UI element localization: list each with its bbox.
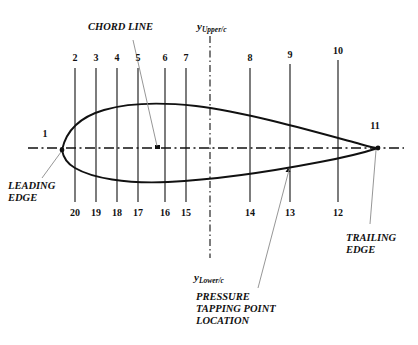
tap-label-2: 2 <box>68 52 82 63</box>
chord-line-caption: CHORD LINE <box>88 21 153 33</box>
y-lower-subscript: Lower/c <box>199 276 224 285</box>
leader-leading-edge <box>42 152 61 178</box>
tap-label-6: 6 <box>158 52 172 63</box>
tap-label-20: 20 <box>66 207 84 218</box>
leading-edge-caption: LEADING EDGE <box>8 180 55 204</box>
airfoil-diagram: 2 3 4 5 6 7 8 9 10 20 19 18 17 16 15 14 … <box>0 0 418 345</box>
tap-label-13: 13 <box>281 207 299 218</box>
tap-label-11: 11 <box>366 120 384 131</box>
tap-label-16: 16 <box>156 207 174 218</box>
tap-label-8: 8 <box>243 52 257 63</box>
tap-label-15: 15 <box>177 207 195 218</box>
tap-marker-1 <box>60 148 65 153</box>
leader-lines <box>42 40 376 288</box>
tap-marker-11 <box>376 146 381 151</box>
tap-label-5: 5 <box>131 52 145 63</box>
tap-label-18: 18 <box>108 207 126 218</box>
tap-label-19: 19 <box>87 207 105 218</box>
tap-label-4: 4 <box>110 52 124 63</box>
tap-marker-chordline <box>155 145 160 149</box>
tap-label-1: 1 <box>38 128 52 139</box>
tap-label-14: 14 <box>241 207 259 218</box>
tap-label-9: 9 <box>283 49 297 60</box>
y-upper-label: yUpper/c <box>186 8 226 44</box>
pressure-tapping-caption: PRESSURE TAPPING POINT LOCATION <box>196 291 276 327</box>
tap-label-3: 3 <box>89 52 103 63</box>
tap-label-7: 7 <box>179 52 193 63</box>
trailing-edge-caption: TRAILING EDGE <box>346 232 396 256</box>
tap-label-12: 12 <box>329 207 347 218</box>
tap-label-17: 17 <box>129 207 147 218</box>
tap-label-10: 10 <box>330 45 346 56</box>
leader-trailing-edge <box>370 150 376 224</box>
airfoil-outline <box>62 104 378 183</box>
leader-pressure-tapping <box>258 170 289 288</box>
y-lower-label: yLower/c <box>183 259 224 295</box>
y-upper-subscript: Upper/c <box>202 25 227 34</box>
